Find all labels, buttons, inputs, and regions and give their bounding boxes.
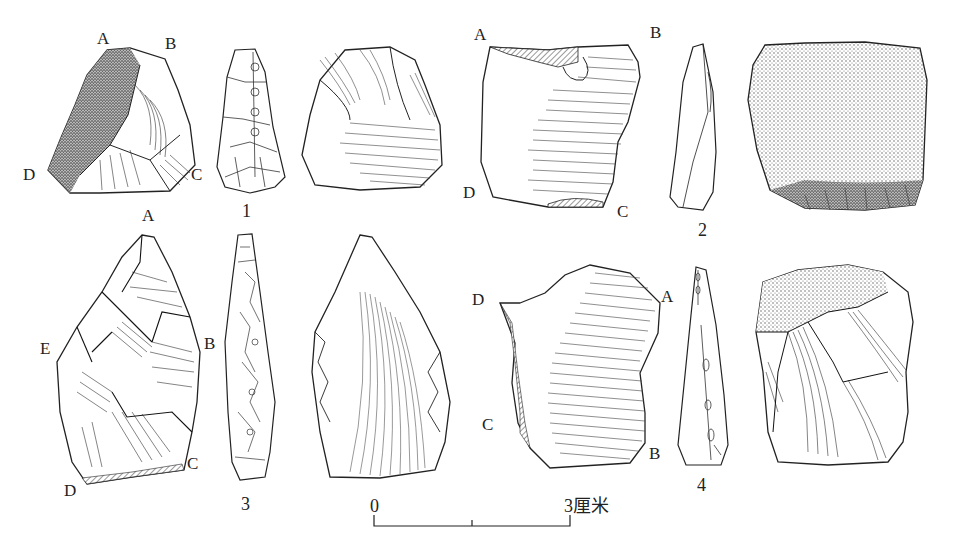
artifact-4-ventral-drawing	[748, 262, 918, 467]
artifact-3-dorsal-drawing	[52, 232, 202, 484]
artifact-4-dorsal-drawing	[490, 263, 660, 473]
point-label-a: A	[142, 207, 154, 224]
point-label-b: B	[650, 24, 661, 41]
artifact-number-3: 3	[241, 495, 250, 513]
point-label-d: D	[64, 482, 76, 499]
point-label-a: A	[97, 30, 109, 47]
point-label-e: E	[40, 340, 50, 357]
scale-bar-end-label: 3厘米	[564, 497, 609, 515]
point-label-d: D	[463, 184, 475, 201]
point-label-d: D	[472, 291, 484, 308]
artifact-1-dorsal-drawing	[40, 45, 200, 195]
point-label-a: A	[474, 26, 486, 43]
scale-bar-start-label: 0	[370, 497, 379, 515]
artifact-number-2: 2	[698, 221, 707, 239]
artifact-2-dorsal-drawing	[478, 42, 658, 212]
point-label-d: D	[23, 166, 35, 183]
point-label-c: C	[617, 203, 628, 220]
scale-bar-line	[373, 514, 573, 528]
artifact-number-4: 4	[697, 476, 706, 494]
point-label-c: C	[482, 416, 493, 433]
artifact-1-ventral-drawing	[300, 45, 450, 193]
artifact-1-side-drawing	[215, 47, 290, 197]
point-label-b: B	[204, 335, 215, 352]
artifact-2-ventral-drawing	[745, 40, 930, 212]
point-label-b: B	[165, 35, 176, 52]
point-label-c: C	[191, 166, 202, 183]
artifact-2-side-drawing	[668, 42, 728, 212]
artifact-4-side-drawing	[676, 265, 731, 470]
artifact-number-1: 1	[242, 202, 251, 220]
artifact-3-side-drawing	[220, 232, 285, 482]
point-label-a: A	[661, 288, 673, 305]
point-label-c: C	[187, 455, 198, 472]
point-label-b: B	[649, 445, 660, 462]
artifact-3-ventral-drawing	[300, 232, 455, 480]
